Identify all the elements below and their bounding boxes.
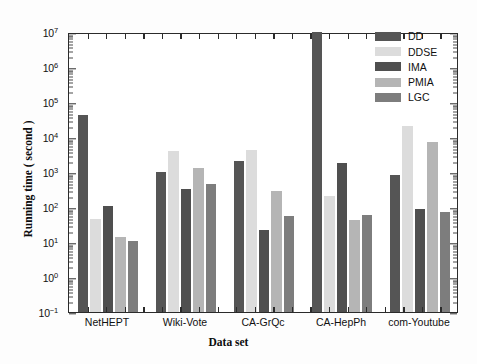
x-tick <box>348 34 349 39</box>
y-tick-label: 100 <box>43 272 58 284</box>
bar-ima-ca-grqc <box>259 230 270 312</box>
x-tick <box>125 307 126 312</box>
bar-ima-ca-hepph <box>337 163 348 312</box>
y-tick-minor <box>69 82 73 83</box>
y-tick-minor <box>69 111 73 112</box>
x-tick <box>180 34 181 39</box>
y-tick-minor <box>69 179 73 180</box>
y-tick-minor <box>69 222 73 223</box>
x-tick <box>422 307 423 312</box>
x-tick <box>180 307 181 312</box>
legend-swatch-pmia <box>375 78 401 87</box>
y-tick-label: 107 <box>43 27 58 39</box>
y-tick-minor <box>453 254 457 255</box>
y-tick-minor <box>453 214 457 215</box>
y-tick-minor <box>453 268 457 269</box>
y-tick-minor <box>453 210 457 211</box>
y-tick-minor <box>69 87 73 88</box>
x-tick <box>310 307 311 312</box>
y-tick-minor <box>69 303 73 304</box>
y-tick-minor <box>69 70 73 71</box>
y-tick-minor <box>69 268 73 269</box>
legend-swatch-lgc <box>375 93 401 102</box>
x-axis-title-text: Data set <box>209 336 249 348</box>
y-tick-minor <box>453 109 457 110</box>
x-tick <box>292 307 293 312</box>
x-tick <box>88 307 89 312</box>
legend-label-lgc: LGC <box>408 92 430 103</box>
bar-ddse-wiki-vote <box>168 151 179 312</box>
y-tick-minor <box>69 249 73 250</box>
y-tick-minor <box>69 79 73 80</box>
bar-lgc-ca-grqc <box>284 216 295 312</box>
y-tick-minor <box>453 257 457 258</box>
bar-lgc-ca-hepph <box>362 215 373 312</box>
y-tick-minor <box>453 222 457 223</box>
y-tick-minor <box>69 289 73 290</box>
x-tick-label-wiki-vote: Wiki-Vote <box>163 316 207 328</box>
x-tick <box>366 34 367 39</box>
y-tick-minor <box>69 140 73 141</box>
y-tick-minor <box>69 251 73 252</box>
bar-dd-ca-hepph <box>312 32 323 312</box>
legend-label-ima: IMA <box>408 62 427 73</box>
x-tick-label-nethept: NetHEPT <box>85 316 129 328</box>
y-tick-minor <box>69 117 73 118</box>
y-tick-minor <box>453 149 457 150</box>
y-tick-minor <box>69 247 73 248</box>
legend-label-pmia: PMIA <box>408 77 434 88</box>
x-tick <box>255 307 256 312</box>
y-tick-minor <box>69 219 73 220</box>
legend-swatch-dd <box>375 32 401 41</box>
y-tick-minor <box>453 286 457 287</box>
bar-ddse-ca-hepph <box>324 196 335 312</box>
bar-pmia-ca-hepph <box>349 220 360 312</box>
y-tick-minor <box>453 282 457 283</box>
y-tick-minor <box>69 58 73 59</box>
y-tick-minor <box>69 72 73 73</box>
y-tick-minor <box>453 144 457 145</box>
x-tick <box>273 307 274 312</box>
y-tick-minor <box>453 128 457 129</box>
bar-ima-nethept <box>103 206 114 312</box>
y-tick-minor <box>453 251 457 252</box>
x-tick <box>162 307 163 312</box>
bar-pmia-nethept <box>115 237 126 312</box>
x-tick <box>440 307 441 312</box>
y-tick-minor <box>453 177 457 178</box>
x-tick <box>403 307 404 312</box>
y-axis: 10−1100101102103104105106107 <box>0 0 68 364</box>
x-tick-label-ca-grqc: CA-GrQc <box>241 316 284 328</box>
legend-item-pmia[interactable]: PMIA <box>375 75 455 90</box>
y-tick-minor <box>69 152 73 153</box>
legend-item-ima[interactable]: IMA <box>375 59 455 74</box>
y-tick-minor <box>453 233 457 234</box>
y-tick-minor <box>69 184 73 185</box>
legend-label-ddse: DDSE <box>408 47 437 58</box>
y-tick-minor <box>453 117 457 118</box>
y-tick-label: 105 <box>43 97 58 109</box>
legend-item-lgc[interactable]: LGC <box>375 90 455 105</box>
x-axis-title: Data set <box>0 336 477 348</box>
y-tick-minor <box>453 198 457 199</box>
x-tick <box>199 307 200 312</box>
x-tick <box>329 34 330 39</box>
x-axis-labels: NetHEPTWiki-VoteCA-GrQcCA-HepPhcom-Youtu… <box>68 316 458 336</box>
x-tick <box>329 307 330 312</box>
y-tick-minor <box>69 280 73 281</box>
y-tick-minor <box>453 280 457 281</box>
bar-lgc-wiki-vote <box>206 184 217 312</box>
x-tick <box>348 307 349 312</box>
x-tick-label-ca-hepph: CA-HepPh <box>316 316 366 328</box>
y-tick-minor <box>69 187 73 188</box>
y-tick-minor <box>69 122 73 123</box>
y-tick-minor <box>453 297 457 298</box>
bar-dd-wiki-vote <box>156 172 167 312</box>
y-tick-minor <box>453 175 457 176</box>
bar-dd-com-youtube <box>390 175 401 312</box>
y-tick-minor <box>69 107 73 108</box>
y-tick-minor <box>453 114 457 115</box>
legend-item-dd[interactable]: DD <box>375 29 455 44</box>
x-tick <box>106 307 107 312</box>
legend-item-ddse[interactable]: DDSE <box>375 44 455 59</box>
